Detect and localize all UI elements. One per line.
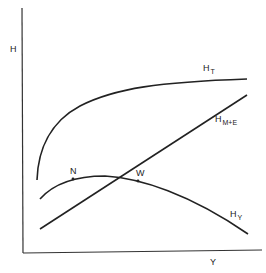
y-axis (22, 8, 23, 253)
y-axis-label: H (10, 45, 17, 54)
point-n-marker (72, 178, 75, 181)
x-axis-label: Y (210, 258, 216, 267)
curve-label-h-m-plus-e: HM+E (215, 115, 237, 124)
point-label-n: N (70, 167, 77, 176)
curve-label-h-m-plus-e-sub: M+E (223, 119, 238, 126)
diagram-canvas (0, 0, 266, 273)
curve-label-h-y: HY (230, 210, 242, 219)
curve-label-h-t: HT (203, 64, 215, 73)
point-label-w: W (136, 169, 145, 178)
curve-label-h-y-main: H (230, 209, 237, 219)
curve-label-h-t-main: H (203, 63, 210, 73)
curve-h-y (40, 176, 248, 234)
curve-label-h-m-plus-e-main: H (215, 114, 222, 124)
x-axis (23, 250, 262, 253)
curve-label-h-y-sub: Y (238, 214, 243, 221)
point-w-marker (137, 180, 140, 183)
curve-label-h-t-sub: T (211, 68, 215, 75)
curve-h-t (37, 79, 247, 180)
